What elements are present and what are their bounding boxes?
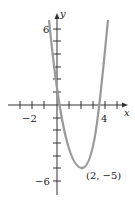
- y-axis-label: y: [59, 8, 66, 19]
- y-tick-label-neg6: −6: [35, 176, 50, 187]
- x-axis-label: x: [124, 107, 130, 118]
- parabola-graph: y x −2 4 6 −6 (2, −5): [0, 0, 135, 208]
- y-axis-arrow-icon: [55, 13, 60, 19]
- parabola-curve: [49, 20, 108, 168]
- x-tick-label-4: 4: [101, 113, 107, 124]
- y-tick-label-6: 6: [43, 24, 49, 35]
- vertex-point: [80, 166, 83, 169]
- x-tick-label-neg2: −2: [22, 113, 37, 124]
- vertex-label: (2, −5): [86, 170, 121, 181]
